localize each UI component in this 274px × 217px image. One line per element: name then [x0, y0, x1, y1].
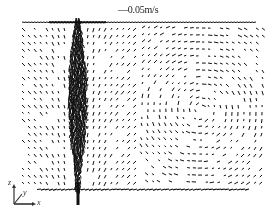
x-axis-label: x — [37, 198, 41, 207]
scale-value: 0.05m/s — [128, 4, 159, 15]
z-axis-label: z — [8, 178, 11, 187]
axes-triad: z y x — [8, 182, 48, 212]
y-axis-label: y — [23, 188, 27, 197]
scale-arrow-icon: — — [118, 4, 128, 15]
scale-reference-label: —0.05m/s — [118, 4, 158, 15]
axes-triad-icon — [8, 182, 48, 212]
